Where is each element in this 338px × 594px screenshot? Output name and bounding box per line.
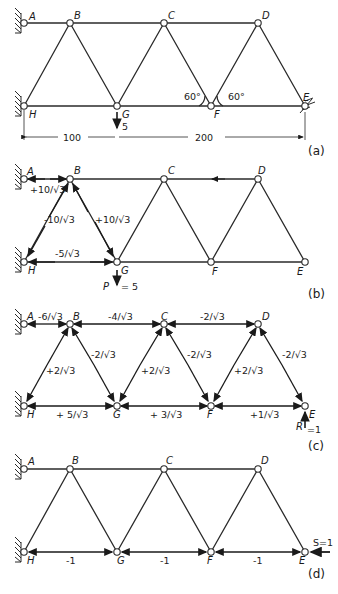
force-fe: +1/√3 — [250, 409, 279, 420]
panel-caption-b: (b) — [308, 287, 325, 301]
force-bh: +2/√3 — [46, 365, 75, 376]
load-name: P — [103, 281, 110, 292]
load-value: = 5 — [121, 281, 138, 292]
node-label-c: C — [168, 165, 175, 176]
node-label-f: F — [207, 555, 213, 566]
force-cg: +2/√3 — [141, 365, 170, 376]
panel-caption-c: (c) — [308, 439, 324, 453]
force-df: +2/√3 — [234, 365, 263, 376]
panel-b: A B C D H G F E +10/√3 -10/√3 +10/√3 -5/… — [15, 164, 325, 301]
node-label-f: F — [207, 409, 213, 420]
panel-c: A B C D H G F E -6/√3 -4/√3 -2/√3 +2/√3 … — [15, 309, 324, 453]
node-label-h: H — [29, 109, 37, 120]
node-label-g: G — [121, 265, 129, 276]
node-label-h: H — [27, 555, 35, 566]
node-label-b: B — [74, 10, 81, 21]
node-label-b: B — [73, 311, 80, 322]
node-label-a: A — [27, 456, 35, 467]
force-cf: -2/√3 — [187, 349, 212, 360]
node-label-g: G — [122, 109, 130, 120]
force-bc: -4/√3 — [108, 311, 133, 322]
force-fe: -1 — [253, 555, 262, 566]
force-de: -2/√3 — [282, 349, 307, 360]
truss-figure: 60° 60° A B C D H G F E 5 100 200 (a) — [0, 0, 338, 594]
force-bg: +10/√3 — [95, 214, 130, 225]
force-gf: + 3/√3 — [150, 409, 182, 420]
node-label-c: C — [168, 10, 175, 21]
force-gf: -1 — [160, 555, 169, 566]
node-label-g: G — [113, 409, 121, 420]
node-label-b: B — [74, 165, 81, 176]
force-bh: -10/√3 — [44, 214, 75, 225]
node-label-f: F — [214, 109, 220, 120]
node-label-c: C — [161, 311, 168, 322]
node-label-h: H — [28, 265, 36, 276]
reaction-value: =1 — [307, 424, 321, 435]
wall-support-a — [15, 8, 21, 33]
node-label-b: B — [72, 455, 79, 466]
force-bg: -2/√3 — [91, 349, 116, 360]
force-hg: + 5/√3 — [56, 409, 88, 420]
node-label-e: E — [303, 92, 310, 103]
force-hg: -1 — [66, 555, 75, 566]
node-label-a: A — [26, 311, 34, 322]
wall-support-h — [15, 91, 21, 116]
node-label-e: E — [299, 555, 306, 566]
node-label-g: G — [117, 555, 125, 566]
force-cd: -2/√3 — [200, 311, 225, 322]
node-label-e: E — [309, 409, 316, 420]
panel-d: A B C D H G F E -1 -1 -1 S=1 (d) — [15, 454, 333, 581]
panel-a: 60° 60° A B C D H G F E 5 100 200 (a) — [15, 8, 325, 158]
panel-caption-d: (d) — [308, 567, 325, 581]
angle-label-right: 60° — [228, 91, 245, 102]
dimension-left: 100 — [63, 132, 81, 143]
node-label-d: D — [258, 165, 266, 176]
node-label-d: D — [262, 10, 270, 21]
node-label-d: D — [261, 455, 269, 466]
dimension-right: 200 — [195, 132, 213, 143]
reaction-name: R — [296, 421, 303, 432]
node-label-a: A — [28, 11, 36, 22]
node-label-a: A — [26, 166, 34, 177]
force-ab: +10/√3 — [30, 184, 65, 195]
panel-caption-a: (a) — [308, 144, 325, 158]
force-ab: -6/√3 — [38, 311, 63, 322]
node-label-d: D — [262, 311, 270, 322]
node-label-f: F — [212, 266, 218, 277]
angle-label-left: 60° — [184, 91, 201, 102]
node-label-e: E — [297, 266, 304, 277]
node-label-c: C — [166, 455, 173, 466]
force-hg: -5/√3 — [55, 248, 80, 259]
load-label: 5 — [122, 121, 128, 132]
node-label-h: H — [27, 409, 35, 420]
load-value: S=1 — [313, 537, 333, 548]
